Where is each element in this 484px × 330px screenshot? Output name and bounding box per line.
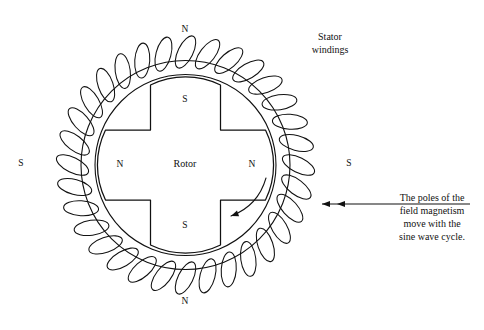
winding-loop [261, 92, 298, 112]
field-note-line: sine wave cycle. [399, 231, 465, 242]
rotor-pole-left: N [117, 159, 124, 169]
winding-loop [56, 175, 94, 198]
winding-loop [273, 190, 307, 226]
field-note-line: field magnetism [400, 205, 465, 216]
field-magnetism-callout: The poles of thefield magnetismmove with… [322, 192, 470, 242]
winding-loop [64, 104, 98, 140]
leader-arrowhead-outer [337, 201, 345, 207]
stator-pole-bottom: N [182, 296, 189, 306]
stator-windings-line: windings [312, 44, 349, 55]
rotor-pole-bottom: S [182, 220, 187, 230]
stator-windings-line: Stator [318, 31, 343, 42]
rotor-pole-right: N [249, 159, 256, 169]
stator-windings-callout: Statorwindings [312, 31, 349, 55]
winding-loop [211, 43, 247, 77]
winding-loop [238, 241, 258, 278]
rotor-rotation-arrow [231, 178, 266, 216]
motor-cross-section-diagram: NSNSSNSN Rotor Statorwindings The poles … [0, 0, 484, 330]
stator-pole-left: S [18, 158, 23, 168]
winding-loop [196, 257, 219, 295]
winding-loop [73, 218, 110, 238]
rotor-pole-top: S [182, 94, 187, 104]
field-note-line: move with the [403, 218, 461, 229]
field-magnetism-text: The poles of thefield magnetismmove with… [399, 192, 465, 242]
stator-pole-right: S [346, 158, 351, 168]
winding-loop [113, 53, 133, 90]
diagram-canvas: NSNSSNSN Rotor Statorwindings The poles … [0, 0, 484, 330]
winding-loop [152, 35, 175, 73]
rotor-center-label: Rotor [174, 158, 197, 169]
winding-loop [277, 131, 315, 154]
winding-loop [124, 252, 160, 286]
leader-arrowhead-inner [322, 201, 330, 207]
field-note-line: The poles of the [400, 192, 465, 203]
stator-pole-top: N [182, 24, 189, 34]
